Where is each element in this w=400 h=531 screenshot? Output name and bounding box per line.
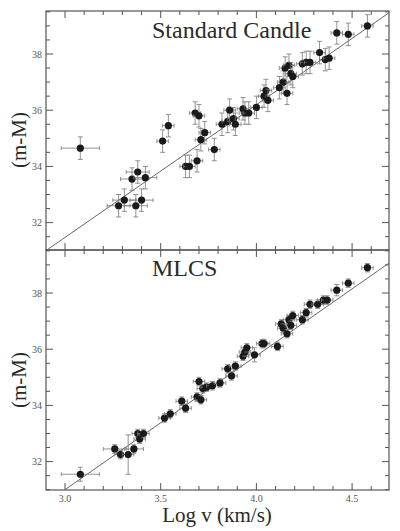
- mlcs-panel: 32343638 3.03.54.04.5 MLCS (m-M) Log v (…: [7, 250, 389, 527]
- top-y-axis-title: (m-M): [7, 112, 31, 168]
- y-tick-label: 38: [32, 49, 42, 60]
- y-tick-label: 32: [32, 217, 42, 228]
- data-point: [251, 96, 262, 118]
- hubble-diagram-figure: 32343638 Standard Candle (m-M) 32343638 …: [0, 0, 400, 531]
- x-tick-label: 4.5: [346, 493, 359, 504]
- data-point: [61, 137, 99, 159]
- y-tick-label: 34: [32, 400, 42, 411]
- data-point: [343, 279, 354, 287]
- bottom-fit-line: [65, 263, 389, 490]
- data-point: [122, 435, 133, 474]
- bottom-y-tick-labels: 32343638: [32, 288, 42, 468]
- data-point: [343, 23, 354, 45]
- data-point: [258, 339, 269, 347]
- top-axis-ticks: [46, 11, 389, 250]
- y-tick-label: 38: [32, 288, 42, 299]
- bottom-axis-ticks: [46, 250, 389, 490]
- data-point: [331, 22, 342, 44]
- bottom-data-points: [61, 263, 373, 481]
- bottom-panel-title: MLCS: [152, 255, 217, 281]
- x-axis-title: Log v (km/s): [162, 503, 272, 527]
- data-point: [331, 285, 342, 296]
- bottom-y-axis-title: (m-M): [7, 352, 31, 408]
- top-fit-line: [47, 13, 389, 250]
- top-y-tick-labels: 32343638: [32, 49, 42, 229]
- y-tick-label: 32: [32, 456, 42, 467]
- data-point: [191, 150, 202, 172]
- y-tick-label: 34: [32, 161, 42, 172]
- y-tick-label: 36: [32, 105, 42, 116]
- data-point: [362, 263, 373, 271]
- top-data-points: [61, 15, 373, 217]
- data-point: [362, 15, 373, 37]
- top-plot-frame: [46, 11, 389, 250]
- data-point: [209, 138, 220, 160]
- data-point: [163, 114, 174, 136]
- data-point: [157, 130, 168, 152]
- top-panel-title: Standard Candle: [152, 17, 311, 43]
- bottom-plot-frame: [46, 250, 389, 490]
- x-tick-label: 3.0: [59, 493, 72, 504]
- y-tick-label: 36: [32, 344, 42, 355]
- standard-candle-panel: 32343638 Standard Candle (m-M): [7, 11, 389, 250]
- chart-canvas: 32343638 Standard Candle (m-M) 32343638 …: [0, 0, 400, 531]
